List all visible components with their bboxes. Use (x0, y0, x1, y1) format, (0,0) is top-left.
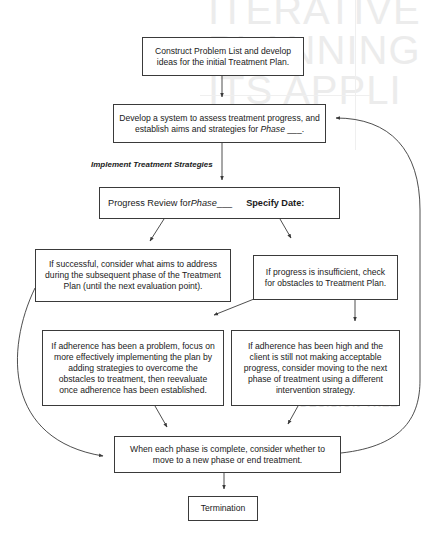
arrow-problem-to-complete (155, 406, 167, 427)
arrow-review-to-insufficient (280, 219, 291, 238)
node-text: If successful, consider what aims to add… (40, 259, 226, 292)
node-progress-review: Progress Review for Phase ___Specify Dat… (99, 187, 340, 219)
node-text: If adherence has been a problem, focus o… (49, 341, 217, 396)
node-if-insufficient: If progress is insufficient, check for o… (253, 255, 398, 300)
node-adherence-problem: If adherence has been a problem, focus o… (42, 330, 224, 406)
specify-date-label: Specify Date: (246, 198, 304, 209)
node-text: Termination (201, 503, 245, 514)
node-text: When each phase is complete, consider wh… (125, 444, 330, 466)
node-if-successful: If successful, consider what aims to add… (35, 249, 231, 302)
node-termination: Termination (188, 496, 258, 521)
node-text: Construct Problem List and develop ideas… (147, 46, 299, 68)
node-develop-assessment-system: Develop a system to assess treatment pro… (113, 104, 326, 143)
node-text: If adherence has been high and the clien… (240, 341, 391, 396)
node-phase-complete: When each phase is complete, consider wh… (114, 436, 341, 473)
arrow-review-to-successful (150, 219, 164, 241)
node-construct-problem-list: Construct Problem List and develop ideas… (142, 37, 304, 76)
node-adherence-high: If adherence has been high and the clien… (231, 330, 400, 406)
node-text: If progress is insufficient, check for o… (262, 267, 389, 289)
arrow-high-to-complete (288, 406, 298, 424)
edge-label-implement-strategies: Implement Treatment Strategies (91, 160, 213, 169)
node-text: Develop a system to assess treatment pro… (118, 113, 321, 135)
